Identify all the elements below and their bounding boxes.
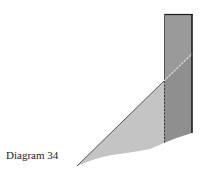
diagram-caption: Diagram 34 [6, 149, 58, 161]
